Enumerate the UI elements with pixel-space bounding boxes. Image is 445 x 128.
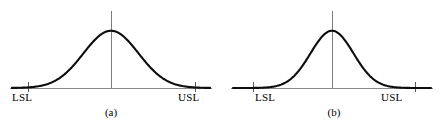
panel-a-usl-label: USL — [178, 91, 199, 104]
panel-b-caption: (b) — [223, 105, 445, 119]
panel-b-plot — [223, 0, 445, 100]
panel-a-caption: (a) — [0, 105, 222, 119]
panel-a: LSL USL (a) — [0, 0, 222, 128]
panel-b-usl-label: USL — [381, 91, 402, 104]
capability-figure: LSL USL (a) LSL USL (b) — [0, 0, 445, 128]
panel-a-lsl-label: LSL — [12, 91, 32, 104]
panel-a-plot — [0, 0, 222, 100]
panel-b: LSL USL (b) — [223, 0, 445, 128]
panel-b-lsl-label: LSL — [255, 91, 275, 104]
